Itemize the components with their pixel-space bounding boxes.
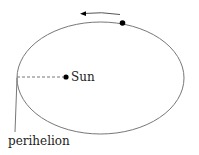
- direction-arrow: [84, 13, 120, 15]
- sun-dot: [63, 74, 68, 79]
- arrowhead-icon: [80, 11, 86, 16]
- sun-label: Sun: [71, 70, 95, 84]
- orbit-diagram: Sun perihelion: [0, 0, 199, 155]
- perihelion-leader-line: [15, 78, 17, 132]
- orbit-ellipse: [17, 22, 184, 134]
- perihelion-label: perihelion: [8, 134, 70, 148]
- planet-dot: [120, 20, 126, 26]
